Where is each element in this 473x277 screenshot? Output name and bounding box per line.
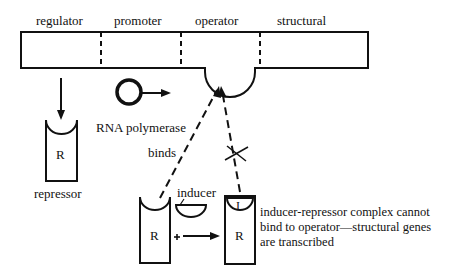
blocked-mark xyxy=(227,146,246,161)
dna-bar xyxy=(21,32,368,97)
complex-caption-line-2: bind to operator—structural genes xyxy=(260,220,431,235)
complex-caption-line-3: are transcribed xyxy=(260,235,334,250)
repressor-letter: R xyxy=(56,148,65,162)
segment-label-regulator: regulator xyxy=(36,14,83,28)
segment-label-operator: operator xyxy=(195,14,238,28)
inducer-shape xyxy=(176,205,206,217)
segment-label-structural: structural xyxy=(277,14,326,28)
complex-inducer-shape xyxy=(227,198,253,210)
rna-polymerase-label: RNA polymerase xyxy=(96,121,186,135)
rna-polymerase-circle xyxy=(117,80,141,104)
binds-dashed-line xyxy=(160,90,217,198)
binds-label: binds xyxy=(148,146,176,160)
blocked-dashed-line xyxy=(222,90,240,192)
inducer-label: inducer xyxy=(177,186,216,200)
complex-repressor-letter: R xyxy=(235,229,244,243)
complex-inducer-letter: I xyxy=(236,199,240,213)
segment-label-promoter: promoter xyxy=(114,14,162,28)
free-repressor-letter: R xyxy=(150,229,159,243)
repressor-label: repressor xyxy=(34,187,82,201)
complex-caption-line-1: inducer-repressor complex cannot xyxy=(260,205,430,220)
